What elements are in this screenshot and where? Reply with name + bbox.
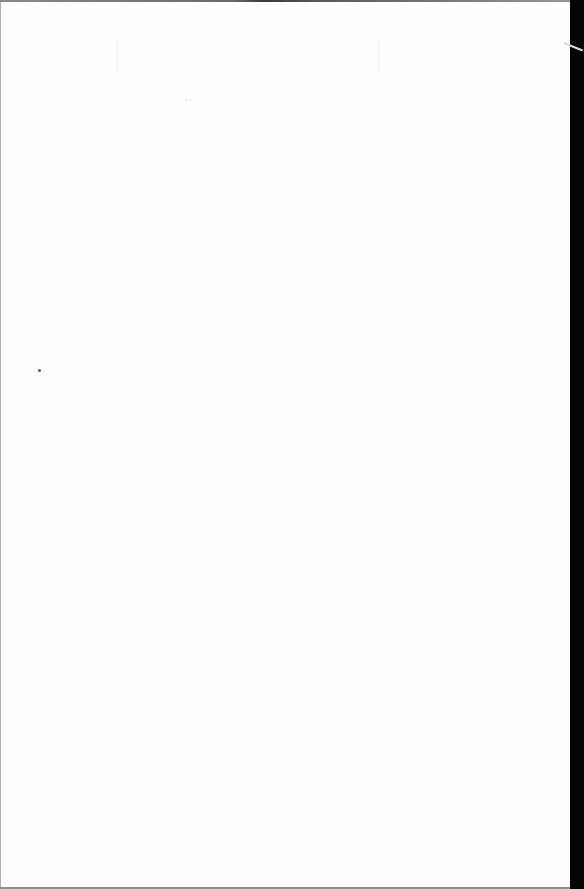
scanned-page — [0, 0, 570, 889]
bleed-through-artifact — [117, 40, 380, 72]
scanner-background-strip — [570, 0, 584, 889]
speck-mark — [186, 100, 187, 101]
page-left-edge — [0, 0, 1, 889]
speck-mark — [38, 369, 41, 372]
page-top-edge — [0, 0, 584, 2]
